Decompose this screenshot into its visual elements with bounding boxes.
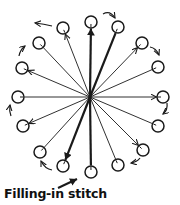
spoke-bottom-left-2 <box>44 97 90 147</box>
stitch-point-right-lower <box>152 120 164 132</box>
stitch-point-bottom-right-2 <box>137 144 149 156</box>
stitch-point-right-upper <box>152 61 164 73</box>
direction-arrow-icon <box>163 103 167 114</box>
caption: Filling-in stitch <box>4 186 107 201</box>
stitch-point-bottom-left-1 <box>57 160 69 172</box>
spoke-top-left-2 <box>43 48 90 97</box>
stitch-point-left-upper <box>16 62 28 74</box>
direction-arrow-icon <box>150 47 159 55</box>
direction-arrow-icon <box>19 46 25 56</box>
spoke-top <box>90 28 91 97</box>
stitch-point-top-left-2 <box>33 37 45 49</box>
spoke-left-upper <box>28 71 90 97</box>
spoke-top-right-2 <box>90 48 137 97</box>
stitch-point-bottom-left-2 <box>34 146 46 158</box>
direction-arrow-icon <box>103 13 115 18</box>
spoke-top-left-1 <box>65 34 90 97</box>
stitch-spokes <box>25 28 157 165</box>
stitch-point-top-right-2 <box>136 37 148 49</box>
spoke-bottom <box>90 97 91 166</box>
stitch-point-left-lower <box>17 120 29 132</box>
filling-in-stitch-diagram <box>0 0 180 205</box>
spoke-bottom-right-2 <box>90 97 138 145</box>
stitch-point-top-right-1 <box>112 21 124 33</box>
direction-arrow-icon <box>35 23 52 26</box>
direction-arrow-icon <box>41 161 52 170</box>
direction-arrow-icon <box>131 158 140 163</box>
direction-arrow-icon <box>10 105 11 116</box>
stitch-point-bottom-right-1 <box>112 159 124 171</box>
stitch-point-top-left-1 <box>57 22 69 34</box>
